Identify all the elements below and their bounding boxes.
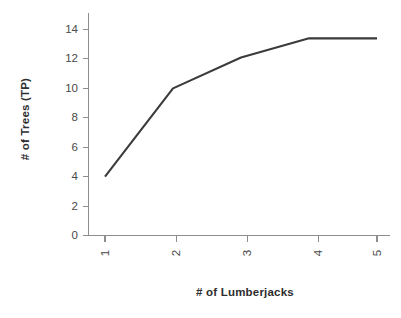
plot-area	[0, 0, 401, 318]
x-tick-marks	[105, 236, 377, 242]
y-tick-marks	[83, 30, 89, 236]
chart-figure: # of Trees (TP) # of Lumberjacks 14 12 1…	[0, 0, 401, 318]
data-series-line	[105, 38, 377, 176]
